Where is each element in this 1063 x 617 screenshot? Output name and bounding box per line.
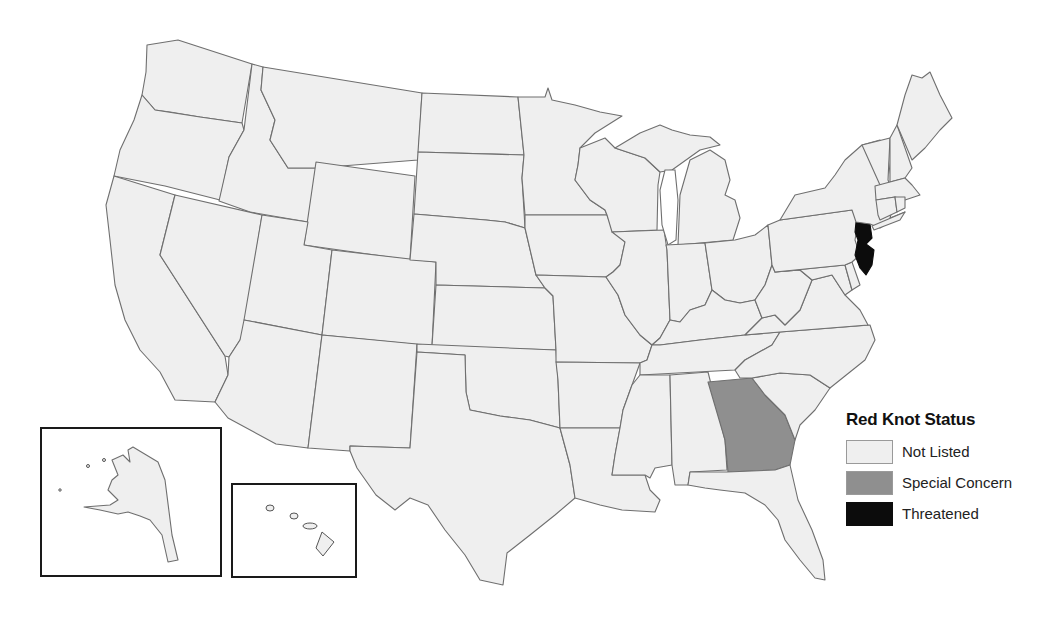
- state-maine: [897, 72, 952, 160]
- alaska-island: [103, 459, 106, 462]
- state-new-mexico: [308, 335, 417, 451]
- legend-swatch-threatened: [846, 502, 893, 526]
- hawaii-inset: [232, 484, 356, 577]
- state-wyoming: [304, 162, 415, 260]
- legend-swatch-special-concern: [846, 471, 893, 495]
- legend-title: Red Knot Status: [846, 410, 1012, 430]
- alaska-island: [59, 489, 61, 491]
- legend-swatch-not-listed: [846, 440, 893, 464]
- state-florida: [688, 465, 825, 580]
- hawaii-inset-frame: [232, 484, 356, 577]
- legend-label: Special Concern: [902, 474, 1012, 491]
- state-kansas: [432, 285, 556, 350]
- state-colorado: [322, 250, 436, 346]
- state-north-dakota: [418, 93, 524, 155]
- legend-item-threatened: Threatened: [846, 498, 1012, 529]
- hawaii-island-oahu: [290, 513, 298, 519]
- state-montana: [261, 67, 422, 168]
- legend-item-not-listed: Not Listed: [846, 436, 1012, 467]
- legend: Red Knot Status Not Listed Special Conce…: [846, 410, 1012, 529]
- state-michigan-lower: [678, 150, 740, 245]
- state-new-jersey: [855, 222, 874, 275]
- legend-item-special-concern: Special Concern: [846, 467, 1012, 498]
- legend-label: Not Listed: [902, 443, 970, 460]
- hawaii-island-kauai: [266, 505, 274, 511]
- state-rhode-island: [895, 197, 905, 212]
- alaska-island: [87, 465, 90, 468]
- hawaii-island-maui: [303, 523, 317, 529]
- legend-label: Threatened: [902, 505, 979, 522]
- alaska-inset: [41, 428, 221, 576]
